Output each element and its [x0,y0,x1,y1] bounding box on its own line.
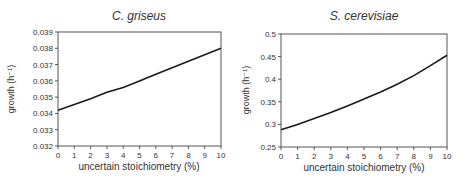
y-tick-label: 0.35 [260,98,276,107]
x-tick-label: 3 [105,151,110,160]
x-tick-label: 0 [279,152,284,161]
y-tick-label: 0.3 [265,120,277,129]
data-line [58,48,221,110]
plot-frame [281,34,447,147]
x-tick-label: 3 [329,152,334,161]
chart-c-griseus: C. griseus 0.0320.0330.0340.0350.0360.03… [6,9,226,172]
x-tick-label: 8 [186,151,191,160]
x-axis-label: uncertain stoichiometry (%) [303,162,424,173]
x-tick-label: 7 [395,152,400,161]
chart-s-cerevisiae: S. cerevisiae 0.250.30.350.40.450.5 0123… [241,9,452,173]
x-tick-label: 9 [202,151,207,160]
y-axis: 0.0320.0330.0340.0350.0360.0370.0380.039 [33,28,58,151]
x-tick-label: 5 [362,152,367,161]
y-tick-label: 0.036 [33,77,54,86]
x-tick-label: 6 [378,152,383,161]
y-tick-label: 0.039 [33,28,54,37]
y-axis-label: growth (h⁻¹) [6,65,16,114]
y-tick-label: 0.034 [33,109,54,118]
chart-title: S. cerevisiae [330,9,399,23]
y-axis: 0.250.30.350.40.450.5 [260,30,281,152]
y-tick-label: 0.032 [33,142,54,151]
y-axis-label: growth (h⁻¹) [241,66,251,115]
x-tick-label: 7 [170,151,175,160]
x-tick-label: 8 [412,152,417,161]
x-tick-label: 5 [137,151,142,160]
y-tick-label: 0.45 [260,53,276,62]
x-tick-label: 4 [121,151,126,160]
x-tick-label: 9 [428,152,433,161]
x-tick-label: 2 [88,151,93,160]
y-tick-label: 0.035 [33,93,54,102]
x-tick-label: 4 [345,152,350,161]
x-tick-label: 10 [217,151,226,160]
y-tick-label: 0.033 [33,126,54,135]
y-tick-label: 0.037 [33,61,54,70]
x-tick-label: 0 [56,151,61,160]
y-tick-label: 0.5 [265,30,277,39]
x-tick-label: 1 [295,152,300,161]
x-tick-label: 2 [312,152,317,161]
data-line [281,55,447,130]
plot-frame [58,32,221,146]
x-tick-label: 6 [154,151,159,160]
x-tick-label: 1 [72,151,77,160]
y-tick-label: 0.25 [260,143,276,152]
x-axis: 012345678910 [56,146,226,160]
y-tick-label: 0.038 [33,44,54,53]
y-tick-label: 0.4 [265,75,277,84]
x-axis: 012345678910 [279,147,452,161]
x-axis-label: uncertain stoichiometry (%) [78,161,199,172]
chart-title: C. griseus [112,9,166,23]
figure-canvas: C. griseus 0.0320.0330.0340.0350.0360.03… [0,0,471,184]
x-tick-label: 10 [443,152,452,161]
